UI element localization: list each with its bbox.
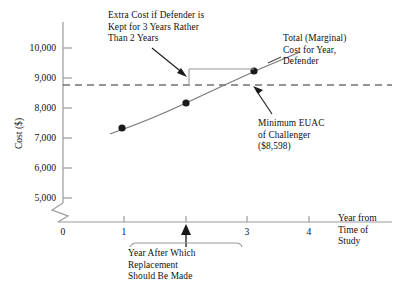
x-tick-label-1: 1 bbox=[112, 226, 136, 237]
extra-cost-leader-line bbox=[152, 48, 184, 74]
annotation-minimum-euac: Minimum EUAC of Challenger ($8,598) bbox=[258, 118, 325, 153]
annotation-replacement-year: Year After Which Replacement Should Be M… bbox=[128, 248, 196, 283]
chart-container: 10,000 9,000 8,000 7,000 6,000 5,000 0 1… bbox=[0, 0, 400, 294]
y-tick-label-10000: 10,000 bbox=[8, 42, 56, 53]
y-axis-break-zigzag bbox=[52, 203, 68, 222]
annotation-total-marginal-cost: Total (Marginal) Cost for Year, Defender bbox=[283, 33, 347, 68]
data-point-year-2 bbox=[182, 99, 189, 106]
x-tick-label-0: 0 bbox=[51, 226, 75, 237]
x-tick-label-4: 4 bbox=[297, 226, 321, 237]
x-axis-title: Year from Time of Study bbox=[338, 212, 377, 247]
x-tick-label-2: 2 bbox=[174, 226, 198, 237]
y-tick-label-6000: 6,000 bbox=[8, 162, 56, 173]
y-tick-label-5000: 5,000 bbox=[8, 192, 56, 203]
annotation-extra-cost: Extra Cost if Defender is Kept for 3 Yea… bbox=[108, 10, 204, 45]
x-tick-label-3: 3 bbox=[235, 226, 259, 237]
y-axis-title: Cost ($) bbox=[13, 104, 24, 164]
min-euac-arrowhead bbox=[253, 86, 263, 94]
data-point-year-1 bbox=[118, 124, 125, 131]
y-tick-label-9000: 9,000 bbox=[8, 72, 56, 83]
